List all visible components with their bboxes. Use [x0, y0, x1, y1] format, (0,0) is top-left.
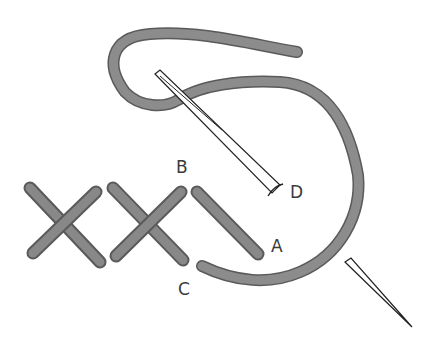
- cross-stitch-1: [30, 188, 100, 262]
- needle-lower: [345, 258, 412, 327]
- cross-stitch-2: [113, 188, 183, 260]
- label-c: C: [178, 279, 190, 299]
- label-b: B: [176, 157, 188, 177]
- label-d: D: [290, 182, 303, 202]
- label-a: A: [271, 236, 283, 256]
- cross-stitch-diagram: [0, 0, 429, 345]
- half-stitch: [197, 192, 258, 254]
